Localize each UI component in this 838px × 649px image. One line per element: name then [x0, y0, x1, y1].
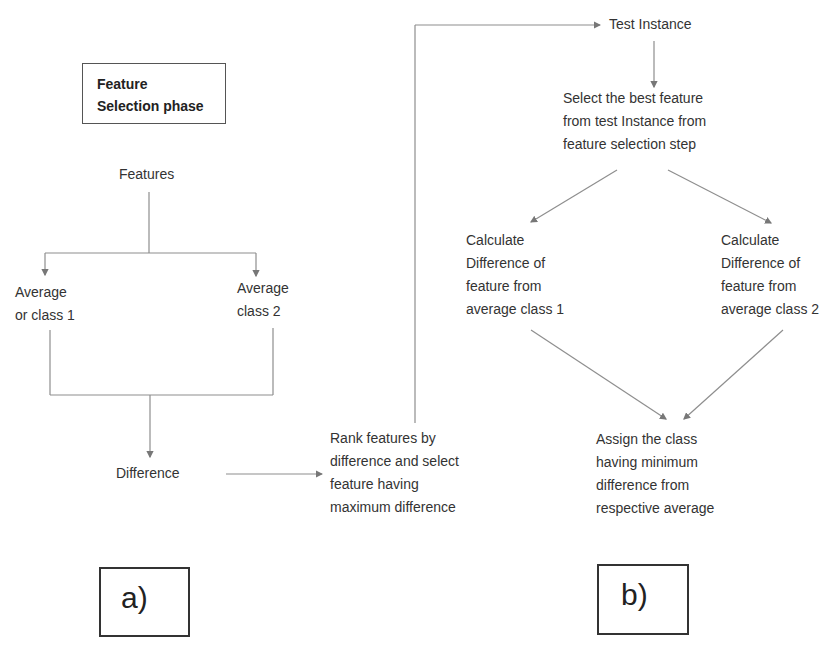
node-features: Features	[119, 163, 174, 186]
title-line-1: Feature	[97, 73, 204, 95]
node-calc-diff-class-2: Calculate Difference of feature from ave…	[721, 229, 819, 321]
calc1-line-4: average class 1	[466, 298, 564, 321]
select-line-2: from test Instance from	[563, 110, 706, 133]
title-line-2: Selection phase	[97, 95, 204, 117]
select-line-1: Select the best feature	[563, 87, 706, 110]
avg1-line-2: or class 1	[15, 304, 75, 327]
calc2-line-4: average class 2	[721, 298, 819, 321]
calc2-line-2: Difference of	[721, 252, 819, 275]
node-average-class-2: Average class 2	[237, 277, 289, 323]
calc2-line-1: Calculate	[721, 229, 819, 252]
panel-a-label: a)	[121, 581, 148, 615]
panel-b-label: b)	[621, 578, 648, 612]
node-select-best-feature: Select the best feature from test Instan…	[563, 87, 706, 156]
difference-label: Difference	[116, 465, 180, 481]
rank-line-3: feature having	[330, 473, 459, 496]
calc1-line-3: feature from	[466, 275, 564, 298]
rank-line-2: difference and select	[330, 450, 459, 473]
avg1-line-1: Average	[15, 281, 75, 304]
node-average-class-1: Average or class 1	[15, 281, 75, 327]
node-test-instance: Test Instance	[609, 13, 692, 36]
assign-line-2: having minimum	[596, 451, 714, 474]
features-label: Features	[119, 166, 174, 182]
node-calc-diff-class-1: Calculate Difference of feature from ave…	[466, 229, 564, 321]
feature-selection-phase-box: Feature Selection phase	[82, 63, 226, 124]
feature-selection-title: Feature Selection phase	[97, 73, 204, 117]
assign-line-1: Assign the class	[596, 428, 714, 451]
calc1-line-1: Calculate	[466, 229, 564, 252]
rank-line-4: maximum difference	[330, 496, 459, 519]
panel-b-label-box: b)	[597, 564, 689, 635]
node-rank-features: Rank features by difference and select f…	[330, 427, 459, 519]
assign-line-3: difference from	[596, 474, 714, 497]
rank-line-1: Rank features by	[330, 427, 459, 450]
avg2-line-2: class 2	[237, 300, 289, 323]
select-line-3: feature selection step	[563, 133, 706, 156]
calc1-line-2: Difference of	[466, 252, 564, 275]
test-instance-label: Test Instance	[609, 16, 692, 32]
node-assign-class: Assign the class having minimum differen…	[596, 428, 714, 520]
avg2-line-1: Average	[237, 277, 289, 300]
flowchart-canvas: Feature Selection phase Features Average…	[0, 0, 838, 649]
assign-line-4: respective average	[596, 497, 714, 520]
node-difference: Difference	[116, 462, 180, 485]
panel-a-label-box: a)	[99, 567, 190, 637]
calc2-line-3: feature from	[721, 275, 819, 298]
